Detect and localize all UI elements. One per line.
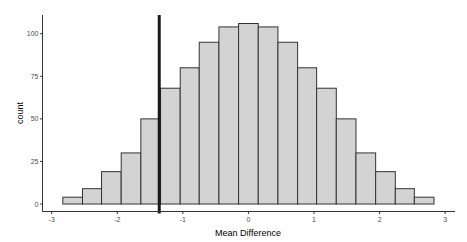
histogram-bars [63, 24, 434, 204]
y-axis-title: count [15, 101, 25, 124]
y-tick-label: 100 [27, 30, 39, 37]
histogram-bar [258, 27, 278, 204]
x-tick-label: -2 [114, 216, 120, 223]
y-tick-label: 25 [31, 158, 39, 165]
y-tick-label: 0 [35, 201, 39, 208]
histogram-bar [121, 153, 141, 204]
histogram-bar [219, 27, 239, 204]
histogram-bar [278, 42, 298, 204]
y-tick-label: 50 [31, 115, 39, 122]
histogram-bar [239, 24, 259, 204]
histogram-bar [376, 172, 396, 204]
x-tick-label: 2 [378, 216, 382, 223]
histogram-bar [63, 197, 83, 204]
histogram-bar [141, 119, 161, 204]
histogram-bar [298, 68, 317, 204]
histogram-chart: 0255075100 -3-2-10123 Mean Difference co… [0, 0, 467, 242]
x-tick-label: -1 [180, 216, 186, 223]
x-axis-title: Mean Difference [215, 228, 281, 238]
y-tick-label: 75 [31, 73, 39, 80]
histogram-bar [414, 197, 434, 204]
histogram-bar [395, 189, 414, 204]
x-tick-label: 1 [312, 216, 316, 223]
histogram-bar [161, 88, 181, 204]
x-tick-label: 3 [443, 216, 447, 223]
histogram-bar [199, 42, 219, 204]
histogram-bar [83, 189, 102, 204]
histogram-bar [336, 119, 356, 204]
histogram-bar [317, 88, 337, 204]
x-tick-label: -3 [49, 216, 55, 223]
x-axis-ticks: -3-2-10123 [49, 212, 448, 223]
y-axis-ticks: 0255075100 [27, 30, 43, 207]
x-tick-label: 0 [246, 216, 250, 223]
histogram-bar [102, 172, 122, 204]
histogram-bar [356, 153, 376, 204]
histogram-bar [180, 68, 199, 204]
